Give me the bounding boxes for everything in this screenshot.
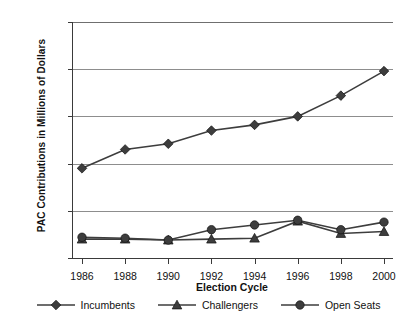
circle-marker-icon bbox=[280, 298, 320, 312]
data-point-diamond bbox=[336, 91, 346, 101]
legend-label: Incumbents bbox=[81, 299, 135, 311]
legend-item-challengers[interactable]: Challengers bbox=[157, 298, 258, 312]
data-point-diamond bbox=[163, 139, 173, 149]
series-open-seats bbox=[78, 216, 388, 244]
data-point-circle bbox=[250, 221, 258, 229]
legend-label: Challengers bbox=[202, 299, 258, 311]
legend-item-open-seats[interactable]: Open Seats bbox=[280, 298, 380, 312]
x-tick-mark-1992 bbox=[211, 258, 212, 264]
series-incumbents bbox=[77, 66, 389, 173]
data-point-circle bbox=[164, 236, 172, 244]
x-tick-mark-2000 bbox=[384, 258, 385, 264]
legend-item-incumbents[interactable]: Incumbents bbox=[36, 298, 135, 312]
data-point-diamond bbox=[207, 126, 217, 136]
data-series-layer bbox=[73, 22, 393, 258]
data-point-diamond bbox=[379, 66, 389, 76]
series-line bbox=[82, 71, 384, 168]
x-tick-mark-1998 bbox=[341, 258, 342, 264]
data-point-circle bbox=[380, 218, 388, 226]
data-point-diamond bbox=[293, 112, 303, 122]
plot-area: 050100150200250 198619881990199219941996… bbox=[72, 22, 393, 259]
legend-label: Open Seats bbox=[325, 299, 380, 311]
data-point-circle bbox=[294, 216, 302, 224]
x-tick-mark-1994 bbox=[255, 258, 256, 264]
data-point-circle bbox=[121, 234, 129, 242]
x-tick-mark-1996 bbox=[298, 258, 299, 264]
pac-contributions-line-chart: PAC Contributions in Millions of Dollars… bbox=[0, 0, 416, 323]
data-point-circle bbox=[337, 225, 345, 233]
x-tick-mark-1986 bbox=[82, 258, 83, 264]
data-point-diamond bbox=[77, 164, 87, 174]
x-tick-mark-1990 bbox=[168, 258, 169, 264]
y-tick-mark-0 bbox=[68, 258, 73, 259]
triangle-marker-icon bbox=[157, 298, 197, 312]
data-point-circle bbox=[78, 233, 86, 241]
diamond-marker-icon bbox=[36, 298, 76, 312]
chart-legend: IncumbentsChallengersOpen Seats bbox=[0, 298, 416, 312]
x-axis-title: Election Cycle bbox=[72, 281, 392, 293]
y-axis-title: PAC Contributions in Millions of Dollars bbox=[36, 11, 47, 261]
data-point-diamond bbox=[250, 120, 260, 130]
x-tick-mark-1988 bbox=[125, 258, 126, 264]
data-point-circle bbox=[207, 225, 215, 233]
data-point-diamond bbox=[120, 145, 130, 155]
